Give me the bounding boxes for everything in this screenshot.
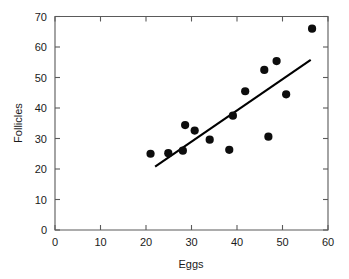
- data-point-marker: [191, 126, 199, 134]
- x-tick-label: 60: [322, 236, 334, 248]
- x-tick-label: 10: [94, 236, 106, 248]
- x-tick-label: 40: [231, 236, 243, 248]
- y-tick-label: 40: [35, 102, 47, 114]
- x-tick-label: 20: [140, 236, 152, 248]
- plot-canvas: 0102030405060 010203040506070 Eggs Folli…: [0, 0, 349, 279]
- data-point-marker: [181, 121, 189, 129]
- data-point-marker: [282, 90, 290, 98]
- y-tick-label: 0: [41, 224, 47, 236]
- y-axis-title: Follicles: [12, 103, 24, 143]
- data-point-marker: [264, 133, 272, 141]
- data-point-marker: [308, 25, 316, 33]
- x-axis-title: Eggs: [178, 258, 204, 270]
- x-tick-label: 50: [276, 236, 288, 248]
- x-tick-label: 30: [185, 236, 197, 248]
- y-tick-label: 50: [35, 72, 47, 84]
- data-point-marker: [260, 66, 268, 74]
- scatter-plot-figure: 0102030405060 010203040506070 Eggs Folli…: [0, 0, 349, 279]
- y-tick-label: 20: [35, 163, 47, 175]
- y-tick-label: 60: [35, 41, 47, 53]
- data-point-marker: [241, 87, 249, 95]
- y-tick-label: 70: [35, 11, 47, 23]
- x-tick-label: 0: [52, 236, 58, 248]
- data-point-marker: [229, 112, 237, 120]
- y-tick-label: 10: [35, 194, 47, 206]
- x-axis-tick-labels: 0102030405060: [52, 236, 334, 248]
- y-axis-tick-labels: 010203040506070: [35, 11, 47, 237]
- plot-frame: [55, 17, 328, 231]
- x-axis-ticks: [55, 17, 328, 231]
- data-points: [146, 25, 316, 158]
- data-point-marker: [179, 147, 187, 155]
- y-axis-ticks: [55, 17, 328, 231]
- data-point-marker: [164, 149, 172, 157]
- y-tick-label: 30: [35, 133, 47, 145]
- data-point-marker: [146, 150, 154, 158]
- data-point-marker: [225, 146, 233, 154]
- data-point-marker: [206, 136, 214, 144]
- data-point-marker: [272, 57, 280, 65]
